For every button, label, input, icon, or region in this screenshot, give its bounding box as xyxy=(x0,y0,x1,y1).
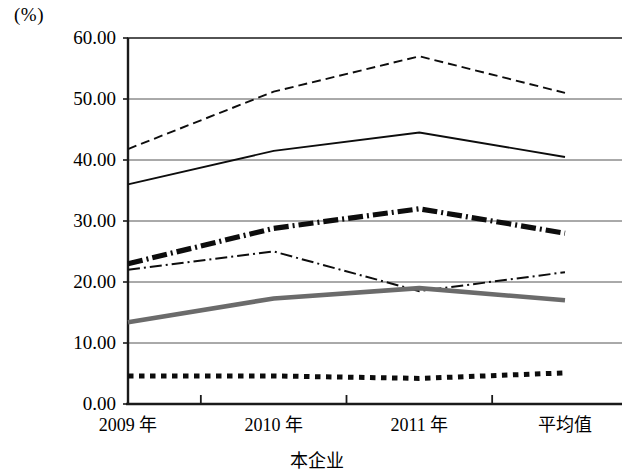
data-series-series-4 xyxy=(128,252,565,292)
data-series-series-2 xyxy=(128,133,565,185)
data-series-series-5 xyxy=(128,288,565,322)
data-series-series-6 xyxy=(128,373,565,378)
data-series-series-3 xyxy=(128,209,565,264)
x-axis-tick-label: 2011 年 xyxy=(347,416,493,434)
x-axis-tick-label: 2009 年 xyxy=(55,416,201,434)
x-axis-tick-label: 2010 年 xyxy=(201,416,347,434)
x-axis-tick-label: 平均值 xyxy=(492,416,634,434)
x-axis-title: 本企业 xyxy=(0,446,634,472)
data-series-series-1 xyxy=(128,56,565,149)
